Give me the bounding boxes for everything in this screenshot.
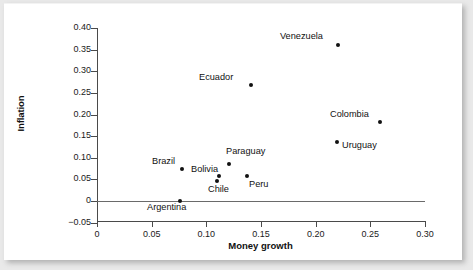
x-tick-mark [261,221,262,227]
x-axis-title: Money growth [97,240,424,251]
y-tick-label: 0.15 [49,131,91,140]
point-label-bolivia: Bolivia [191,164,218,174]
y-tick-label: 0 [49,196,91,205]
x-tick-label: 0.30 [405,229,445,239]
data-point-brazil [180,167,184,171]
y-tick-mark [91,93,97,94]
y-tick-label: 0.25 [49,88,91,97]
y-tick-mark [91,71,97,72]
y-tick-label: 0.35 [49,45,91,54]
y-tick-label: 0.05 [49,174,91,183]
point-label-brazil: Brazil [152,156,175,166]
data-point-uruguay [335,140,339,144]
data-point-ecuador [249,83,253,87]
x-tick-label: 0.25 [350,229,390,239]
y-tick-label: 0.10 [49,153,91,162]
y-tick-mark [91,201,97,202]
y-tick-label-text: 0.15 [55,131,91,140]
data-point-bolivia [217,174,221,178]
x-tick-label: 0.20 [296,229,336,239]
y-tick-label-text: 0.35 [55,45,91,54]
y-tick-label-text: −0.05 [55,218,91,227]
scatter-plot: Inflation Money growth 0.400.350.300.250… [4,4,462,260]
y-tick-label-text: 0.05 [55,174,91,183]
x-tick-mark [97,221,98,227]
x-tick-label: 0.10 [186,229,226,239]
y-tick-label-text: 0.25 [55,88,91,97]
y-tick-label: 0.20 [49,110,91,119]
x-tick-mark [425,221,426,227]
y-tick-mark [91,179,97,180]
figure-card: Inflation Money growth 0.400.350.300.250… [4,3,462,260]
x-tick-label: 0.05 [132,229,172,239]
y-tick-mark [91,136,97,137]
point-label-uruguay: Uruguay [342,140,377,150]
y-tick-label-text: 0.40 [55,23,91,32]
y-tick-label-text: 0.30 [55,66,91,75]
y-tick-label-text: 0.10 [55,153,91,162]
data-point-paraguay [227,162,231,166]
y-tick-mark [91,158,97,159]
y-tick-label: 0.30 [49,66,91,75]
x-tick-mark [152,221,153,227]
x-tick-mark [370,221,371,227]
data-point-colombia [378,120,382,124]
point-label-venezuela: Venezuela [280,31,323,41]
y-tick-mark [91,28,97,29]
y-tick-label: −0.05 [49,218,91,227]
data-point-peru [245,174,249,178]
x-tick-mark [316,221,317,227]
x-tick-label: 0.15 [241,229,281,239]
y-tick-label-text: 0 [55,196,91,205]
data-point-chile [215,179,219,183]
point-label-chile: Chile [208,184,229,194]
x-tick-mark [206,221,207,227]
y-axis-line [97,28,98,222]
point-label-paraguay: Paraguay [226,146,265,156]
x-tick-label: 0 [77,229,117,239]
y-axis-title: Inflation [15,74,26,154]
point-label-ecuador: Ecuador [199,72,233,82]
point-label-colombia: Colombia [330,109,369,119]
y-tick-label: 0.40 [49,23,91,32]
data-point-venezuela [336,43,340,47]
y-tick-mark [91,50,97,51]
y-tick-label-text: 0.20 [55,110,91,119]
point-label-peru: Peru [249,179,268,189]
point-label-argentina: Argentina [147,202,186,212]
y-tick-mark [91,115,97,116]
